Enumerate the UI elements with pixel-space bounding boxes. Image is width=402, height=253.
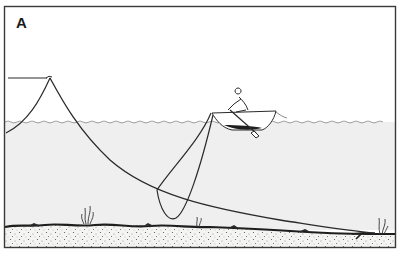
water bbox=[5, 122, 395, 230]
sky bbox=[5, 7, 395, 122]
panel-label: A bbox=[16, 14, 27, 31]
illustration bbox=[0, 0, 402, 253]
